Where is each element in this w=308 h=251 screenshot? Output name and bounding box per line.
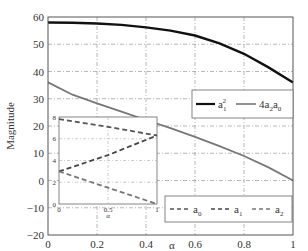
magnitude-vs-alpha-chart: 6050403020100−10−20 00.20.40.60.81 Magni… xyxy=(0,0,308,251)
series-line-a12 xyxy=(48,23,293,83)
inset-chart: 00.5186420 α xyxy=(53,114,160,221)
y-tick-label: 30 xyxy=(33,93,45,105)
y-tick-label: 0 xyxy=(39,175,45,187)
y-tick-label: 50 xyxy=(33,38,45,50)
inset-x-axis-label: α xyxy=(106,212,110,220)
inset-x-tick: 1 xyxy=(155,206,159,214)
y-axis-ticks: 6050403020100−10−20 xyxy=(27,11,45,241)
inset-y-tick: 2 xyxy=(53,179,57,187)
inset-y-tick: 0 xyxy=(53,201,57,209)
y-tick-label: 60 xyxy=(33,11,45,23)
inset-y-tick: 4 xyxy=(53,157,57,165)
x-tick-label: 0.4 xyxy=(139,238,153,250)
y-tick-label: −10 xyxy=(27,202,45,214)
legend-coefficients: a0 a1 a2 xyxy=(165,196,292,222)
legend-main: a12 4a2a0 xyxy=(192,90,293,118)
inset-y-tick: 8 xyxy=(53,114,57,122)
y-axis-label: Magnitude xyxy=(4,102,16,150)
x-tick-label: 0.8 xyxy=(237,238,251,250)
y-tick-label: 20 xyxy=(33,120,45,132)
x-tick-label: 1 xyxy=(290,238,296,250)
y-tick-label: −20 xyxy=(27,229,45,241)
inset-x-tick: 0 xyxy=(57,206,61,214)
y-tick-label: 10 xyxy=(33,147,45,159)
x-tick-label: 0.6 xyxy=(188,238,202,250)
inset-y-tick: 6 xyxy=(53,135,57,143)
x-tick-label: 0 xyxy=(45,238,51,250)
x-axis-label: α xyxy=(169,239,175,251)
y-tick-label: 40 xyxy=(33,66,45,78)
x-tick-label: 0.2 xyxy=(90,238,104,250)
